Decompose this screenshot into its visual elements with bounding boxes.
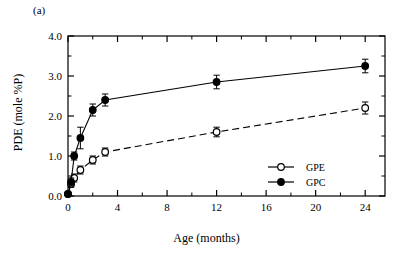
legend-marker xyxy=(278,164,285,171)
legend-label: GPE xyxy=(306,162,325,173)
x-tick-label: 8 xyxy=(164,201,170,213)
data-point xyxy=(89,107,96,114)
y-tick-label: 3.0 xyxy=(48,70,62,82)
y-tick-label: 4.0 xyxy=(48,30,62,42)
x-tick-label: 0 xyxy=(65,201,71,213)
x-tick-label: 12 xyxy=(211,201,222,213)
data-point xyxy=(77,135,84,142)
legend-item-GPC[interactable]: GPC xyxy=(268,177,326,188)
figure-panel-a: (a) PDE (mole %P) Age (months) 0.01.02.0… xyxy=(0,0,413,254)
plot-frame xyxy=(68,36,385,196)
data-point xyxy=(65,191,72,198)
data-point xyxy=(362,63,369,70)
x-tick-label: 20 xyxy=(310,201,322,213)
y-tick-label: 2.0 xyxy=(48,110,62,122)
data-point xyxy=(71,153,78,160)
x-tick-label: 4 xyxy=(115,201,121,213)
legend-label: GPC xyxy=(306,177,326,188)
legend-item-GPE[interactable]: GPE xyxy=(268,162,325,173)
data-point xyxy=(213,79,220,86)
data-point xyxy=(77,167,84,174)
data-point xyxy=(102,149,109,156)
y-tick-label: 0.0 xyxy=(48,190,62,202)
data-point xyxy=(102,97,109,104)
data-point xyxy=(68,179,75,186)
data-point xyxy=(89,157,96,164)
legend-marker xyxy=(278,179,285,186)
data-point xyxy=(213,129,220,136)
y-tick-label: 1.0 xyxy=(48,150,62,162)
x-tick-label: 16 xyxy=(261,201,273,213)
data-point xyxy=(362,105,369,112)
chart-plot-area: 0.01.02.03.04.004812162024GPEGPC xyxy=(0,0,413,254)
x-tick-label: 24 xyxy=(360,201,372,213)
